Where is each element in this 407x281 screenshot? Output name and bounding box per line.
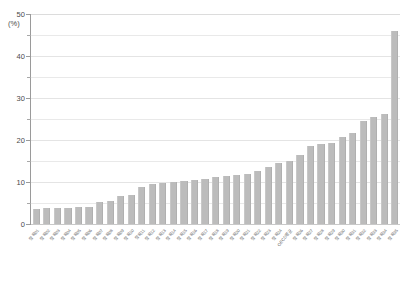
bar-slot	[295, 14, 306, 224]
x-label-slot: 항목08	[105, 226, 116, 281]
x-label-slot: 항목21	[242, 226, 253, 281]
bar-slot	[147, 14, 158, 224]
bar-slot	[73, 14, 84, 224]
bar-slot	[126, 14, 137, 224]
bar-slot	[189, 14, 200, 224]
x-axis-tick-label: 항목08	[102, 228, 114, 241]
x-axis-tick-label: 항목32	[355, 228, 367, 241]
bar	[128, 195, 135, 224]
x-label-slot: 항목05	[73, 226, 84, 281]
bar-slot	[84, 14, 95, 224]
bar-slot	[31, 14, 42, 224]
bar	[233, 175, 240, 224]
x-axis-tick-label: 항목26	[292, 228, 304, 241]
bar	[85, 207, 92, 224]
y-axis-tick-label: 10	[16, 178, 25, 187]
bar-slot	[221, 14, 232, 224]
bar	[328, 143, 335, 224]
y-axis-tick-label: 50	[16, 10, 25, 19]
x-label-slot: 항목34	[379, 226, 390, 281]
bar-slot	[105, 14, 116, 224]
bar	[201, 179, 208, 224]
y-axis-tick-label: 0	[21, 220, 25, 229]
x-axis-tick-label: 항목23	[260, 228, 272, 241]
bar	[370, 117, 377, 224]
x-label-slot: 항목06	[84, 226, 95, 281]
bar	[107, 201, 114, 224]
x-label-slot: 항목28	[316, 226, 327, 281]
x-axis-tick-label: 항목33	[366, 228, 378, 241]
bar-slot	[316, 14, 327, 224]
x-axis-tick-label: 항목02	[39, 228, 51, 241]
bar	[349, 133, 356, 224]
bar	[286, 161, 293, 224]
x-label-slot: 항목35	[390, 226, 401, 281]
y-axis-tick-label: 20	[16, 136, 25, 145]
x-axis-tick-label: 항목13	[155, 228, 167, 241]
bar	[339, 137, 346, 224]
bar	[244, 174, 251, 224]
x-axis-tick-label: 항목21	[239, 228, 251, 241]
y-axis-tick-label: 30	[16, 94, 25, 103]
bar	[212, 177, 219, 224]
x-axis-tick-label: 항목34	[376, 228, 388, 241]
x-axis-tick-label: 항목10	[123, 228, 135, 241]
bar	[265, 167, 272, 224]
bar-slot	[369, 14, 380, 224]
x-axis-tick-label: 항목31	[345, 228, 357, 241]
x-axis-tick-label: 항목06	[81, 228, 93, 241]
x-label-slot: 항목27	[305, 226, 316, 281]
x-axis-tick-label: 항목22	[250, 228, 262, 241]
bar-slot	[252, 14, 263, 224]
x-label-slot: 항목16	[189, 226, 200, 281]
x-label-slot: 항목09	[115, 226, 126, 281]
x-axis-tick-label: 항목29	[324, 228, 336, 241]
x-axis-tick-label: 항목05	[71, 228, 83, 241]
x-axis-tick-label: 항목28	[313, 228, 325, 241]
bar	[64, 208, 71, 224]
x-label-slot: 항목30	[337, 226, 348, 281]
x-axis-tick-label: 항목11	[134, 228, 146, 241]
bar-slot	[200, 14, 211, 224]
x-axis-tick-label: 항목03	[49, 228, 61, 241]
x-axis-tick-label: 항목09	[113, 228, 125, 241]
x-label-slot: 항목10	[126, 226, 137, 281]
bar	[307, 146, 314, 224]
bar	[117, 196, 124, 224]
x-axis-tick-label: 항목16	[187, 228, 199, 241]
x-label-slot: 항목12	[147, 226, 158, 281]
bar-slot	[337, 14, 348, 224]
x-axis-tick-label: 항목15	[176, 228, 188, 241]
bar-slot	[326, 14, 337, 224]
x-label-slot: 항목14	[168, 226, 179, 281]
x-axis-tick-label: 항목27	[303, 228, 315, 241]
bar	[159, 183, 166, 224]
bar	[317, 144, 324, 224]
x-axis-tick-label: 항목04	[60, 228, 72, 241]
bar	[254, 171, 261, 224]
bar	[180, 181, 187, 224]
bar-slot	[136, 14, 147, 224]
x-axis-tick-label: 항목14	[165, 228, 177, 241]
axis-baseline	[31, 224, 400, 225]
bar	[75, 207, 82, 224]
bar-slot	[179, 14, 190, 224]
bar	[360, 121, 367, 224]
x-label-slot: 항목17	[200, 226, 211, 281]
x-label-slot: 항목18	[210, 226, 221, 281]
bar-series	[31, 14, 400, 224]
bar-slot	[231, 14, 242, 224]
x-axis-tick-label: 항목12	[144, 228, 156, 241]
bar	[170, 182, 177, 224]
bar-slot	[274, 14, 285, 224]
plot-area	[31, 14, 400, 224]
x-axis-tick-label: 항목35	[387, 228, 399, 241]
x-axis-tick-label: 항목07	[92, 228, 104, 241]
bar	[54, 208, 61, 224]
bar-chart: (%) 01020304050 항목01항목02항목03항목04항목05항목06…	[0, 0, 407, 281]
bar	[149, 184, 156, 224]
y-axis-tick-label: 40	[16, 52, 25, 61]
x-label-slot: 항목07	[94, 226, 105, 281]
x-axis-tick-label: 항목01	[28, 228, 40, 241]
x-axis-tick-label: 항목18	[208, 228, 220, 241]
